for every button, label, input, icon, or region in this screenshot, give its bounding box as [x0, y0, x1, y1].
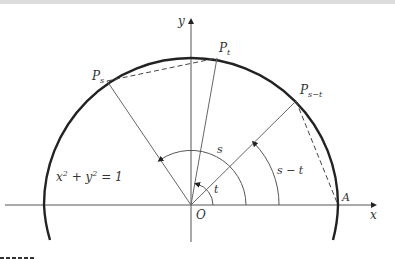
point-a-label: A: [341, 191, 350, 204]
point-ps-label: Ps: [91, 69, 104, 85]
angle-s-minus-t-label: s − t: [277, 164, 304, 177]
arc-s-minus-t: [254, 143, 279, 205]
y-axis-label: y: [177, 14, 185, 28]
point-pst-label: Ps−t: [299, 83, 323, 99]
angle-t-label: t: [214, 183, 219, 196]
angle-s-label: s: [217, 143, 223, 156]
x-axis-label: x: [370, 208, 377, 222]
point-pt-label: Pt: [218, 41, 231, 57]
radius-ps: [107, 81, 191, 205]
unit-circle-diagram: y x O A Ps Pt Ps−t s t s − t x2 + y2 = 1: [0, 0, 395, 259]
origin-label: O: [196, 208, 206, 222]
arc-t: [197, 184, 213, 205]
chord-pst-a: [296, 101, 338, 205]
circle-equation: x2 + y2 = 1: [56, 169, 123, 184]
